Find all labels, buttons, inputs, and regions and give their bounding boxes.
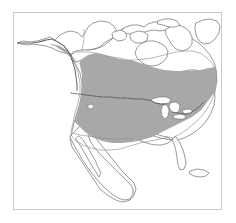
figure-root [0,0,236,223]
cuba-outline [190,169,209,177]
greenland-outline [195,19,220,44]
florida-outline [172,137,186,170]
north-america-range-map [14,13,221,209]
victoria-island-outline [130,31,148,43]
map-frame [13,12,222,210]
